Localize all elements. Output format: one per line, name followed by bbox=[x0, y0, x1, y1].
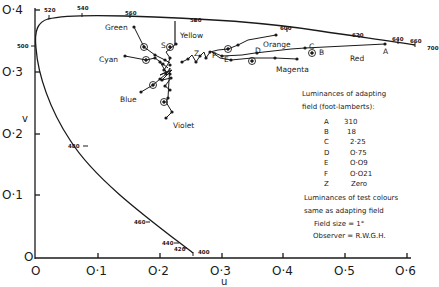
legend-key-Z: Z bbox=[324, 180, 329, 188]
y-tick-0-2: O·2 bbox=[2, 127, 23, 141]
label-magenta: Magenta bbox=[276, 65, 309, 74]
label-E: E bbox=[224, 55, 229, 64]
wavelength-580: 580 bbox=[190, 17, 202, 23]
label-green: Green bbox=[105, 23, 128, 32]
legend-key-B: B bbox=[324, 128, 329, 136]
legend-value-F: O·O21 bbox=[350, 170, 372, 178]
legend-value-C: 2·25 bbox=[350, 138, 366, 146]
legend-value-E: O·O9 bbox=[350, 159, 368, 167]
legend-note-2: same as adapting field bbox=[304, 207, 384, 215]
x-tick-0-2: O·2 bbox=[148, 264, 169, 278]
wavelength-400: 400 bbox=[198, 249, 210, 255]
x-tick-0-5: O·5 bbox=[334, 264, 355, 278]
label-B: B bbox=[319, 48, 324, 57]
x-tick-0-4: O·4 bbox=[272, 264, 293, 278]
label-violet: Violet bbox=[173, 121, 194, 130]
legend-title-line1: Luminances of adapting bbox=[302, 90, 386, 98]
legend-note-3: Field size = 1° bbox=[314, 220, 364, 228]
wavelength-560: 560 bbox=[125, 10, 137, 16]
wavelength-660: 660 bbox=[410, 38, 422, 44]
label-cyan: Cyan bbox=[99, 55, 118, 64]
chromaticity-chart: O·4 O·3 O·2 O·1 v O O O·1 O·2 O·3 O·4 O·… bbox=[0, 0, 439, 287]
label-D: D bbox=[255, 46, 261, 55]
y-axis-title: v bbox=[22, 113, 28, 124]
legend-note-1: Luminances of test colours bbox=[304, 194, 398, 202]
legend-key-E: E bbox=[324, 159, 328, 167]
legend-key-A: A bbox=[324, 118, 329, 126]
y-tick-0: O bbox=[24, 250, 33, 264]
wavelength-600: 600 bbox=[280, 25, 292, 31]
label-Z: Z bbox=[194, 49, 199, 58]
label-F: F bbox=[212, 51, 216, 60]
wavelength-420: 420 bbox=[174, 246, 186, 252]
wavelength-700: 700 bbox=[427, 45, 439, 51]
legend-value-D: O·75 bbox=[350, 149, 367, 157]
legend-note-4: Observer = R.W.G.H. bbox=[313, 232, 386, 240]
label-S: S bbox=[161, 41, 166, 50]
x-tick-labels: O O·1 O·2 O·3 O·4 O·5 O·6 u bbox=[31, 264, 416, 287]
x-axis-title: u bbox=[221, 276, 227, 287]
x-tick-0-6: O·6 bbox=[395, 264, 416, 278]
label-C: C bbox=[309, 42, 314, 51]
y-tick-0-3: O·3 bbox=[2, 65, 23, 79]
label-red: Red bbox=[350, 54, 364, 63]
wavelength-480: 480 bbox=[68, 143, 80, 149]
wavelength-640: 640 bbox=[392, 36, 404, 42]
legend: Luminances of adapting field (foot-lambe… bbox=[302, 90, 398, 240]
wavelength-540: 540 bbox=[77, 5, 89, 11]
legend-key-C: C bbox=[324, 138, 329, 146]
wavelength-440: 440 bbox=[162, 240, 174, 246]
legend-key-D: D bbox=[324, 149, 329, 157]
legend-value-B: 18 bbox=[347, 128, 356, 136]
legend-key-F: F bbox=[324, 170, 328, 178]
x-tick-0: O bbox=[31, 264, 40, 278]
label-A: A bbox=[383, 47, 389, 56]
legend-value-Z: Zero bbox=[351, 180, 367, 188]
label-yellow: Yellow bbox=[179, 31, 203, 40]
label-blue: Blue bbox=[120, 95, 137, 104]
label-orange: Orange bbox=[263, 40, 291, 49]
legend-title-line2: field (foot-lamberts): bbox=[302, 103, 375, 111]
y-tick-0-4: O·4 bbox=[2, 3, 23, 17]
legend-value-A: 310 bbox=[344, 118, 357, 126]
wavelength-620: 620 bbox=[352, 32, 364, 38]
wavelength-labels: 520 540 560 580 600 620 640 660 700 500 … bbox=[17, 5, 439, 255]
wavelength-500: 500 bbox=[17, 43, 29, 49]
colour-labels: Green Cyan Blue Violet Yellow Orange Mag… bbox=[99, 23, 364, 130]
wavelength-460: 460 bbox=[134, 219, 146, 225]
y-tick-0-1: O·1 bbox=[2, 188, 23, 202]
wavelength-520: 520 bbox=[44, 7, 56, 13]
x-tick-0-1: O·1 bbox=[86, 264, 107, 278]
